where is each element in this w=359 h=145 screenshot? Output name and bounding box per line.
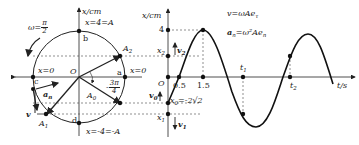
v1-label: v1 [178, 120, 186, 131]
phase-angle-label: -3π4 [106, 80, 120, 95]
a1-label: A1 [39, 120, 48, 130]
omega-label: ω=π2 [28, 20, 48, 35]
right-zero-label: x=0 [130, 67, 146, 75]
peak-dot [201, 28, 205, 32]
t15-dot [201, 75, 205, 79]
t1-dot [241, 75, 245, 79]
a0-label: A0 [87, 92, 96, 102]
velocity-formula: v=ωAeτ [227, 10, 258, 20]
graph-x-axis-label: t/s [337, 82, 347, 90]
circle-origin-label: O [70, 68, 77, 76]
point-a [123, 75, 127, 79]
curve-t1-dot [241, 112, 245, 116]
point-a1 [44, 112, 48, 116]
tick-0-5: 0.5 [173, 82, 186, 90]
origin-dot [166, 75, 170, 79]
point-c [31, 87, 35, 91]
t1-label: t1 [240, 64, 247, 74]
velocity-label: v [26, 110, 31, 118]
circle-axis-label: x/cm [82, 8, 101, 16]
point-a-label: a [117, 69, 122, 77]
x0-label: x0=-2√2 [170, 97, 203, 107]
point-a2 [118, 54, 122, 58]
x1-dot [166, 112, 170, 116]
left-zero-label: x=0 [38, 67, 54, 75]
t05-dot [177, 75, 181, 79]
acceleration-formula: an=ω²Aen [227, 28, 266, 39]
x2-dot [166, 54, 170, 58]
bottom-amplitude-label: x=-4=-A [86, 128, 120, 136]
x2-label: x2 [157, 47, 165, 57]
top-amplitude-label: x=4=A [85, 19, 114, 27]
tick-4-dot [166, 28, 170, 32]
a2-label: A2 [123, 45, 132, 55]
t2-dot [288, 75, 292, 79]
point-b-label: b [83, 35, 88, 43]
v0-label: v0 [149, 91, 157, 102]
point-a0 [118, 101, 122, 105]
acceleration-label: an [43, 90, 52, 101]
point-d [77, 121, 81, 125]
tick-1-5: 1.5 [197, 82, 210, 90]
x1-label: x1 [157, 114, 165, 124]
graph-y-axis-label: x/cm [142, 12, 161, 20]
y-tick-4: 4 [159, 26, 164, 34]
shm-reference-circle-diagram: ω=π2 x/cm x=4=A b d x=-4=-A x=0 x=0 O a … [0, 0, 359, 145]
point-b [77, 29, 81, 33]
phasor-a2 [79, 56, 120, 77]
point-d-label: d [72, 117, 77, 125]
t2-label: t2 [290, 82, 297, 92]
v2-label: v2 [177, 46, 185, 57]
phase-angle-arc [90, 72, 93, 83]
rotation-direction-arrow [28, 38, 40, 56]
displacement-curve [168, 30, 333, 127]
point-c-label: c [34, 78, 38, 86]
curve-t2-dot [288, 54, 292, 58]
graph-origin-label: O [158, 80, 165, 88]
